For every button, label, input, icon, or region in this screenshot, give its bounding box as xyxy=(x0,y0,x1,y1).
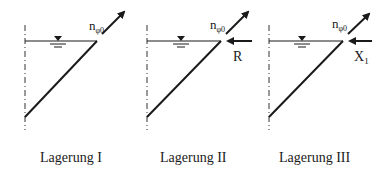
force-arrow-n-phi0 xyxy=(348,14,369,34)
caption-lagerung-1: Lagerung I xyxy=(40,150,102,166)
force-label: nφ0 xyxy=(210,17,225,34)
caption-lagerung-2: Lagerung II xyxy=(160,150,226,166)
reaction-label: X1 xyxy=(354,49,369,66)
force-arrow-n-phi0 xyxy=(102,12,124,34)
force-arrow-n-phi0 xyxy=(226,12,248,34)
shell-meridian-line xyxy=(269,41,343,117)
panel-lagerung-2: nφ0 R xyxy=(147,12,252,130)
reaction-label: R xyxy=(233,49,243,64)
panel-lagerung-1: nφ0 xyxy=(25,12,124,130)
force-label: nφ0 xyxy=(332,16,347,33)
force-label: nφ0 xyxy=(89,18,104,35)
caption-lagerung-3: Lagerung III xyxy=(279,150,350,166)
shell-meridian-line xyxy=(147,41,221,117)
shell-meridian-line xyxy=(25,41,97,117)
panel-lagerung-3: nφ0 X1 xyxy=(269,14,372,130)
